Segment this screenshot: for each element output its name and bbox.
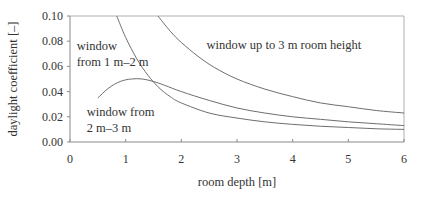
annotations: windowfrom 1 m–2 mwindow up to 3 m room … xyxy=(77,38,362,135)
annotation-window-up-to-3m: window up to 3 m room height xyxy=(206,38,361,52)
x-axis-label: room depth [m] xyxy=(198,175,276,189)
annotation-line: window up to 3 m room height xyxy=(206,38,361,52)
x-tick-label: 3 xyxy=(234,152,240,166)
annotation-line: 2 m–3 m xyxy=(87,121,132,135)
curve-window-up-to-3m xyxy=(158,16,404,113)
y-tick-label: 0.04 xyxy=(42,85,63,99)
x-tick-label: 4 xyxy=(290,152,296,166)
annotation-window-2m-3m: window from2 m–3 m xyxy=(87,105,155,135)
x-tick-label: 1 xyxy=(123,152,129,166)
x-tick-label: 5 xyxy=(345,152,351,166)
y-tick-label: 0.06 xyxy=(42,59,63,73)
y-tick-label: 0.08 xyxy=(42,34,63,48)
annotation-line: from 1 m–2 m xyxy=(77,55,149,69)
annotation-window-1m-2m: windowfrom 1 m–2 m xyxy=(77,39,149,69)
y-axis: 0.000.020.040.060.080.10 xyxy=(42,9,70,149)
curve-window-2m-3m xyxy=(98,79,404,126)
daylight-coefficient-chart: 0123456 0.000.020.040.060.080.10 windowf… xyxy=(0,0,425,200)
x-tick-label: 2 xyxy=(178,152,184,166)
annotation-line: window xyxy=(77,39,117,53)
x-tick-label: 0 xyxy=(67,152,73,166)
y-tick-label: 0.10 xyxy=(42,9,63,23)
x-tick-label: 6 xyxy=(401,152,407,166)
annotation-line: window from xyxy=(87,105,155,119)
x-axis: 0123456 xyxy=(67,139,407,166)
y-axis-label: daylight coefficient [–] xyxy=(6,21,20,136)
y-tick-label: 0.00 xyxy=(42,135,63,149)
y-tick-label: 0.02 xyxy=(42,110,63,124)
